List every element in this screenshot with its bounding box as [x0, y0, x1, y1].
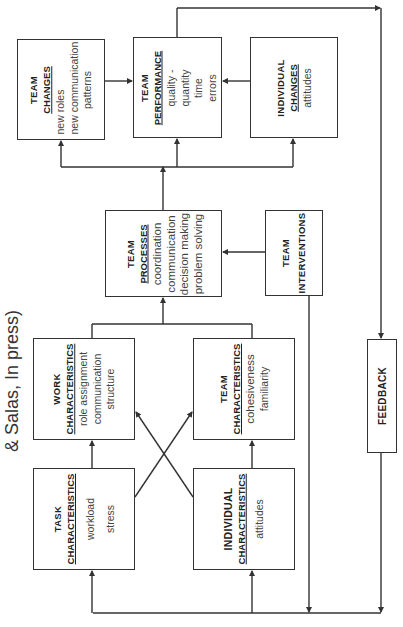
box-subheading: INTERVENTIONS [294, 213, 310, 294]
box-item: new communication [68, 41, 82, 140]
box-item: cohesiveness [244, 354, 258, 424]
box-subheading: CHARACTERISTICS [235, 474, 249, 565]
box-item: role assignment [77, 352, 91, 426]
box-item: patterns [81, 71, 95, 109]
box-heading: FEEDBACK [376, 367, 389, 425]
box-heading: TEAM [217, 375, 230, 403]
box-heading: TEAM [123, 239, 136, 267]
individual-changes-box: INDIVIDUAL CHANGES attitudes [250, 37, 338, 138]
box-item: time [191, 78, 205, 98]
work-characteristics-box: WORK CHARACTERISTICS role assignment com… [33, 338, 135, 440]
box-item: new roles [54, 89, 68, 140]
box-item: decision making [177, 212, 191, 294]
box-heading: TASK [51, 506, 64, 532]
box-heading: TEAM [137, 73, 150, 101]
team-interventions-box: TEAM INTERVENTIONS [265, 210, 323, 296]
team-characteristics-box: TEAM CHARACTERISTICS cohesiveness famili… [193, 338, 295, 440]
box-item: communication [164, 215, 178, 292]
box-heading: WORK [50, 373, 63, 404]
box-subheading: PROCESSES [136, 224, 150, 283]
team-processes-box: TEAM PROCESSES coordination communicatio… [105, 210, 222, 297]
box-subheading: CHARACTERISTICS [63, 344, 77, 435]
box-heading: INDIVIDUAL [222, 487, 235, 550]
box-heading: INDIVIDUAL [274, 59, 287, 116]
box-item: problem solving [191, 213, 205, 294]
box-item: structure [104, 369, 118, 410]
box-heading: TEAM [27, 75, 40, 103]
team-changes-box: TEAM CHANGES new roles new communication… [17, 39, 105, 140]
box-item: attitudes [253, 499, 267, 539]
box-item: attitudes [301, 68, 315, 108]
feedback-box: FEEDBACK [367, 339, 397, 453]
box-subheading: CHARACTERISTICS [64, 474, 78, 565]
box-item: quantity [178, 69, 192, 106]
box-item: quality - [164, 69, 178, 106]
task-characteristics-box: TASK CHARACTERISTICS workload stress [33, 468, 135, 570]
box-item: coordination [150, 222, 164, 285]
box-subheading: CHARACTERISTICS [230, 344, 244, 435]
box-item: communication [91, 354, 105, 425]
box-item: errors [205, 74, 219, 101]
team-performance-box: TEAM PERFORMANCE quality - quantity time… [133, 37, 222, 138]
box-item: familiarity [258, 367, 272, 411]
box-item: stress [104, 505, 118, 533]
box-subheading: PERFORMANCE [150, 50, 164, 124]
box-item: workload [84, 498, 98, 540]
box-heading: TEAM [278, 239, 294, 267]
individual-characteristics-box: INDIVIDUAL CHARACTERISTICS attitudes [193, 468, 295, 570]
box-subheading: CHANGES [287, 64, 301, 112]
box-subheading: CHANGES [40, 66, 54, 114]
diagram-title: & Salas, In press) [2, 310, 23, 452]
